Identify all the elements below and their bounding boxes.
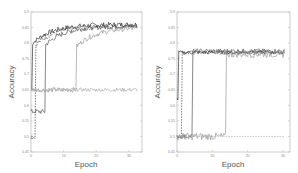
y-tick-label: 0.85 (168, 26, 175, 30)
y-tick-label: 0.8 (170, 41, 175, 45)
series-line-run-2 (177, 50, 285, 138)
y-axis-label: Accuracy (153, 66, 162, 99)
y-tick-label: 0.5 (170, 135, 175, 139)
plot-frame (177, 12, 290, 152)
series-lines (31, 22, 137, 139)
x-tick-label: 10 (62, 154, 66, 158)
series-line-run-3 (31, 24, 137, 113)
y-tick-label: 0.8 (24, 41, 29, 45)
y-axis-label: Accuracy (7, 66, 16, 99)
x-tick-label: 0 (176, 154, 178, 158)
y-tick-label: 0.9 (170, 10, 175, 14)
plot-frame (31, 12, 142, 152)
y-tick-label: 0.85 (22, 26, 29, 30)
x-tick-label: 10 (210, 154, 214, 158)
y-tick-label: 0.7 (170, 72, 175, 76)
x-tick-label: 0 (30, 154, 32, 158)
series-line-run-2 (31, 24, 137, 139)
y-tick-label: 0.55 (168, 119, 175, 123)
y-tick-label: 0.55 (22, 119, 29, 123)
y-tick-label: 0.75 (168, 57, 175, 61)
series-line-run-4 (31, 27, 137, 93)
series-lines (177, 49, 285, 140)
x-axis-label: Epoch (222, 160, 245, 169)
ticks: 0.450.50.550.60.650.70.750.80.850.901020… (22, 10, 142, 158)
x-tick-label: 20 (246, 154, 250, 158)
y-tick-label: 0.9 (24, 10, 29, 14)
y-tick-label: 0.7 (24, 72, 29, 76)
series-line-run-3 (177, 49, 285, 139)
x-axis-label: Epoch (75, 160, 98, 169)
x-tick-label: 30 (281, 154, 285, 158)
x-tick-label: 20 (94, 154, 98, 158)
figure: 0.450.50.550.60.650.70.750.80.850.901020… (0, 0, 298, 173)
y-tick-label: 0.75 (22, 57, 29, 61)
x-tick-label: 30 (127, 154, 131, 158)
series-line-run-1 (31, 22, 137, 89)
y-tick-label: 0.45 (168, 150, 175, 154)
y-tick-label: 0.6 (24, 104, 29, 108)
y-tick-label: 0.45 (22, 150, 29, 154)
right-panel: 0.450.50.550.60.650.70.750.80.850.901020… (153, 10, 290, 169)
left-panel: 0.450.50.550.60.650.70.750.80.850.901020… (7, 10, 142, 169)
y-tick-label: 0.6 (170, 104, 175, 108)
y-tick-label: 0.65 (22, 88, 29, 92)
y-tick-label: 0.5 (24, 135, 29, 139)
y-tick-label: 0.65 (168, 88, 175, 92)
series-line-run-4 (177, 50, 285, 140)
